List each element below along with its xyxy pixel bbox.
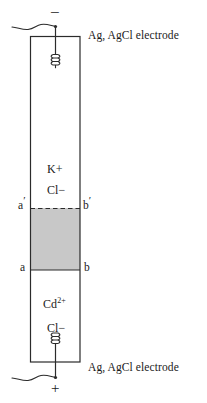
- upper-chamber-cation-label: K+: [47, 163, 63, 175]
- boundary-label-b: b: [84, 262, 90, 274]
- boundary-label-a: a: [20, 262, 25, 274]
- top-electrode-coil-body: [51, 55, 53, 66]
- cell-tube-outline: [31, 37, 81, 363]
- lower-cation-formula: Cd: [43, 297, 57, 311]
- boundary-label-a-prime: a′: [18, 200, 26, 212]
- negative-terminal-sign: −: [50, 4, 60, 21]
- positive-terminal-sign: +: [51, 381, 60, 396]
- junction-gray-region: [31, 208, 81, 270]
- boundary-label-b-prime: b′: [83, 200, 91, 212]
- top-electrode-coil-body-right: [58, 55, 60, 66]
- boundary-label-a-prime-mark: ′: [23, 194, 26, 206]
- lower-cation-charge: 2+: [57, 296, 66, 305]
- lower-chamber-cation-label: Cd2+: [43, 298, 66, 310]
- top-electrode-coil: [53, 55, 59, 66]
- cell-schematic-svg: [0, 0, 207, 403]
- top-electrode-caption: Ag, AgCl electrode: [88, 30, 179, 42]
- lower-chamber-anion-label: Cl−: [47, 322, 65, 334]
- top-wavy-wire: [12, 24, 56, 29]
- boundary-label-b-prime-mark: ′: [89, 194, 92, 206]
- cell-diagram: − + Ag, AgCl electrode Ag, AgCl electrod…: [0, 0, 207, 403]
- bottom-electrode-caption: Ag, AgCl electrode: [88, 362, 179, 374]
- upper-chamber-anion-label: Cl−: [47, 184, 65, 196]
- bottom-wavy-wire: [12, 375, 56, 380]
